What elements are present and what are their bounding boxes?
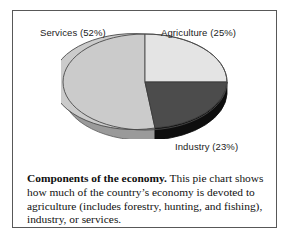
- pie-slice-industry: [145, 82, 227, 128]
- pie-slice-agriculture: [145, 34, 227, 82]
- figure-caption: Components of the economy. This pie char…: [27, 172, 265, 222]
- pie-slice-services: [61, 34, 155, 130]
- pie-label-agriculture: Agriculture (25%): [161, 27, 236, 38]
- figure-panel: Services (52%) Agriculture (25%) Industr…: [12, 10, 277, 222]
- pie-chart-area: Services (52%) Agriculture (25%) Industr…: [13, 11, 276, 159]
- pie-label-industry: Industry (23%): [175, 141, 238, 152]
- pie-label-services: Services (52%): [40, 27, 106, 38]
- caption-lead-in: Components of the economy.: [27, 172, 167, 184]
- pie-chart-graphic: [61, 31, 229, 139]
